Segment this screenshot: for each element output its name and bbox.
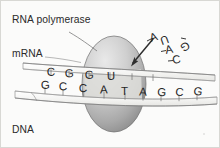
dna-base: C bbox=[59, 80, 68, 92]
dna-base: G bbox=[41, 79, 50, 91]
label-rna-polymerase: RNA polymerase bbox=[12, 14, 91, 25]
dna-base: T bbox=[121, 85, 128, 97]
dna-base: G bbox=[193, 85, 204, 98]
free-nucleotide-G: G bbox=[178, 38, 192, 54]
mrna-base: G bbox=[84, 69, 94, 81]
mrna-base: C bbox=[46, 66, 55, 78]
leader-line-rna-polymerase bbox=[69, 32, 97, 51]
mrna-base: G bbox=[64, 67, 74, 79]
figure-canvas: C G G U G C C A T A G C G A bbox=[0, 0, 220, 148]
label-dna-coding-strand: DNA coding strand bbox=[12, 102, 43, 148]
leader-line-mrna bbox=[45, 57, 81, 63]
dna-base: A bbox=[139, 85, 147, 97]
svg-text:A: A bbox=[148, 30, 159, 44]
dna-base: G bbox=[157, 86, 167, 99]
scan-speck bbox=[203, 133, 205, 135]
dna-base: C bbox=[79, 82, 88, 94]
svg-text:G: G bbox=[178, 39, 192, 54]
free-nucleotide-letters: A U G A C bbox=[147, 30, 192, 66]
label-dna-line-1: DNA bbox=[12, 124, 43, 135]
mrna-base: U bbox=[107, 70, 116, 82]
dna-base: C bbox=[175, 86, 185, 99]
label-mrna: mRNA bbox=[12, 48, 43, 59]
free-nucleotide-A-incoming: A bbox=[147, 30, 159, 44]
dna-base: A bbox=[100, 83, 108, 95]
svg-text:C: C bbox=[171, 53, 181, 66]
